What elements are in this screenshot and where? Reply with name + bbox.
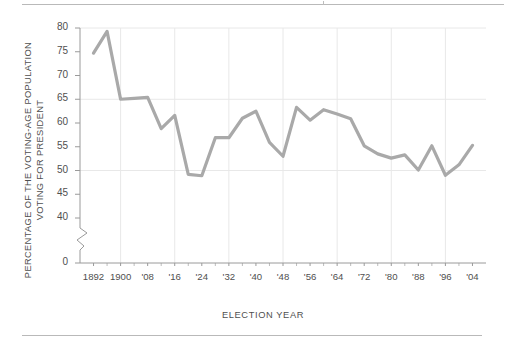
- chart-svg: [66, 22, 494, 266]
- y-tick-label: 60: [42, 116, 68, 127]
- y-tick-label: 40: [42, 211, 68, 222]
- y-tick-label: 0: [42, 256, 68, 267]
- y-tick-label: 80: [42, 21, 68, 32]
- y-tick-label: 75: [42, 45, 68, 56]
- x-tick-label: '04: [452, 271, 492, 282]
- y-tick-label: 70: [42, 69, 68, 80]
- y-tick-label: 55: [42, 140, 68, 151]
- x-axis-title: ELECTION YEAR: [0, 310, 526, 320]
- y-tick-label: 45: [42, 187, 68, 198]
- y-axis-title-line-1: PERCENTAGE OF THE VOTING-AGE POPULATION: [22, 42, 35, 278]
- plot-area: 040455055606570758018921900'08'16'24'32'…: [66, 22, 494, 266]
- y-tick-label: 65: [42, 92, 68, 103]
- chart-figure: PERCENTAGE OF THE VOTING-AGE POPULATION …: [0, 0, 526, 344]
- bottom-divider-rule: [22, 335, 482, 336]
- top-rule-tick-mark: [323, 1, 324, 5]
- y-tick-label: 50: [42, 164, 68, 175]
- top-divider-rule: [22, 4, 504, 5]
